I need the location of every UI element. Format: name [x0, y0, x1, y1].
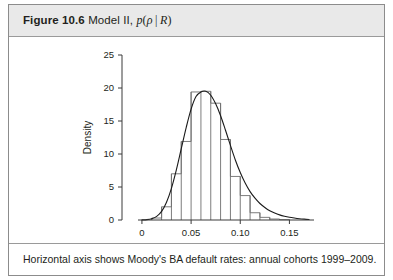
histogram-bars [152, 91, 290, 220]
svg-text:0.15: 0.15 [280, 227, 299, 238]
figure-title: Model II, [88, 14, 133, 26]
svg-text:5: 5 [109, 181, 114, 192]
figure-number: Figure 10.6 [23, 14, 85, 26]
figure-header-text: Figure 10.6 Model II, p(ρ | R) [23, 13, 172, 28]
svg-text:20: 20 [103, 82, 114, 93]
svg-text:0.10: 0.10 [231, 227, 250, 238]
figure-title-math-close: ) [167, 13, 171, 27]
svg-text:0: 0 [109, 214, 114, 225]
figure-title-math-bar: | [153, 13, 161, 27]
density-histogram-chart: 0510152025 00.050.100.15 Density ρ [9, 37, 386, 243]
figure-card: Figure 10.6 Model II, p(ρ | R) 051015202… [8, 4, 385, 276]
svg-text:0.05: 0.05 [182, 227, 201, 238]
plot-area: 0510152025 00.050.100.15 Density ρ [9, 37, 384, 243]
svg-text:10: 10 [103, 148, 114, 159]
figure-header-band: Figure 10.6 Model II, p(ρ | R) [9, 5, 384, 37]
figure-caption-band: Horizontal axis shows Moody's BA default… [9, 243, 384, 275]
density-curve [142, 91, 309, 220]
x-axis-ticks: 00.050.100.15 [139, 220, 298, 238]
y-axis-ticks: 0510152025 [103, 49, 122, 225]
svg-text:25: 25 [103, 49, 114, 60]
svg-text:0: 0 [139, 227, 144, 238]
y-axis-title: Density [82, 121, 93, 154]
figure-caption: Horizontal axis shows Moody's BA default… [23, 253, 376, 265]
svg-text:15: 15 [103, 115, 114, 126]
